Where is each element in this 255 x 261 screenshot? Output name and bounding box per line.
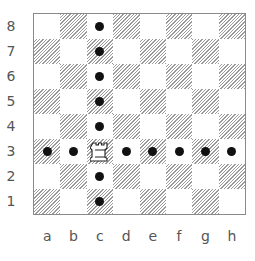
square-a1: [34, 189, 60, 214]
square-f5: [166, 89, 192, 114]
square-g2: [192, 164, 218, 189]
rank-label-7: 7: [4, 44, 18, 58]
square-e1: [140, 189, 166, 214]
square-d1: [113, 189, 139, 214]
square-b1: [60, 189, 86, 214]
square-c3: [87, 139, 113, 164]
square-c1: [87, 189, 113, 214]
square-h1: [219, 189, 245, 214]
file-label-e: e: [145, 229, 161, 243]
square-a6: [34, 64, 60, 89]
square-f4: [166, 114, 192, 139]
square-e7: [140, 39, 166, 64]
square-g1: [192, 189, 218, 214]
square-c4: [87, 114, 113, 139]
rank-label-1: 1: [4, 194, 18, 208]
square-d3: [113, 139, 139, 164]
square-c2: [87, 164, 113, 189]
square-h2: [219, 164, 245, 189]
move-marker-dot-icon: [95, 172, 104, 181]
file-label-b: b: [66, 229, 82, 243]
rank-label-2: 2: [4, 169, 18, 183]
square-a3: [34, 139, 60, 164]
square-f7: [166, 39, 192, 64]
move-marker-dot-icon: [148, 147, 157, 156]
square-e2: [140, 164, 166, 189]
file-label-h: h: [224, 229, 240, 243]
file-label-c: c: [92, 229, 108, 243]
square-e4: [140, 114, 166, 139]
square-e3: [140, 139, 166, 164]
square-h4: [219, 114, 245, 139]
square-b4: [60, 114, 86, 139]
square-d4: [113, 114, 139, 139]
move-marker-dot-icon: [227, 147, 236, 156]
move-marker-dot-icon: [95, 47, 104, 56]
square-h6: [219, 64, 245, 89]
rank-label-8: 8: [4, 19, 18, 33]
square-h7: [219, 39, 245, 64]
square-e6: [140, 64, 166, 89]
square-a8: [34, 14, 60, 39]
square-d8: [113, 14, 139, 39]
square-g5: [192, 89, 218, 114]
square-f6: [166, 64, 192, 89]
square-e5: [140, 89, 166, 114]
square-b2: [60, 164, 86, 189]
square-h3: [219, 139, 245, 164]
square-b6: [60, 64, 86, 89]
move-marker-dot-icon: [201, 147, 210, 156]
square-f3: [166, 139, 192, 164]
square-d6: [113, 64, 139, 89]
square-h5: [219, 89, 245, 114]
move-marker-dot-icon: [95, 197, 104, 206]
square-g7: [192, 39, 218, 64]
rank-label-5: 5: [4, 94, 18, 108]
square-a4: [34, 114, 60, 139]
square-f1: [166, 189, 192, 214]
move-marker-dot-icon: [43, 147, 52, 156]
square-g8: [192, 14, 218, 39]
square-b7: [60, 39, 86, 64]
file-label-f: f: [171, 229, 187, 243]
square-h8: [219, 14, 245, 39]
file-label-a: a: [39, 229, 55, 243]
square-b5: [60, 89, 86, 114]
move-marker-dot-icon: [95, 97, 104, 106]
square-d7: [113, 39, 139, 64]
move-marker-dot-icon: [69, 147, 78, 156]
square-g3: [192, 139, 218, 164]
square-c7: [87, 39, 113, 64]
move-marker-dot-icon: [95, 122, 104, 131]
square-b3: [60, 139, 86, 164]
square-a5: [34, 89, 60, 114]
file-label-d: d: [118, 229, 134, 243]
square-g4: [192, 114, 218, 139]
square-g6: [192, 64, 218, 89]
square-e8: [140, 14, 166, 39]
square-c6: [87, 64, 113, 89]
file-label-g: g: [197, 229, 213, 243]
square-b8: [60, 14, 86, 39]
move-marker-dot-icon: [95, 22, 104, 31]
square-c5: [87, 89, 113, 114]
move-marker-dot-icon: [122, 147, 131, 156]
rank-label-6: 6: [4, 69, 18, 83]
square-f2: [166, 164, 192, 189]
square-d5: [113, 89, 139, 114]
white-rook-icon: [90, 141, 110, 163]
square-c8: [87, 14, 113, 39]
square-f8: [166, 14, 192, 39]
rank-label-4: 4: [4, 119, 18, 133]
square-a7: [34, 39, 60, 64]
move-marker-dot-icon: [175, 147, 184, 156]
rank-label-3: 3: [4, 144, 18, 158]
chess-board: [33, 13, 246, 215]
square-d2: [113, 164, 139, 189]
square-a2: [34, 164, 60, 189]
move-marker-dot-icon: [95, 72, 104, 81]
